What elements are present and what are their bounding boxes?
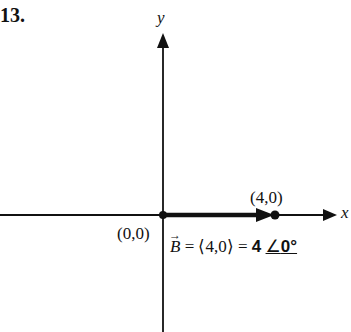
y-axis-arrowhead <box>157 33 169 48</box>
vector-b-symbol: →B <box>170 237 180 257</box>
angle-notation: ∠0° <box>266 237 298 256</box>
origin-label: (0,0) <box>117 224 150 244</box>
endpoint-label: (4,0) <box>250 188 283 208</box>
vector-equation: →B = ⟨4,0⟩ = 4 ∠0° <box>170 236 297 257</box>
x-axis-label: x <box>341 203 349 223</box>
angle-value: 0° <box>281 237 297 256</box>
angle-icon: ∠ <box>266 236 281 256</box>
endpoint-point <box>271 211 280 220</box>
y-axis-label: y <box>157 8 165 28</box>
magnitude: 4 <box>252 237 261 256</box>
x-axis-arrowhead <box>323 209 337 221</box>
coordinate-plane <box>0 0 351 332</box>
component-form: = ⟨4,0⟩ = <box>185 237 248 256</box>
vector-arrow-icon: → <box>169 228 181 243</box>
